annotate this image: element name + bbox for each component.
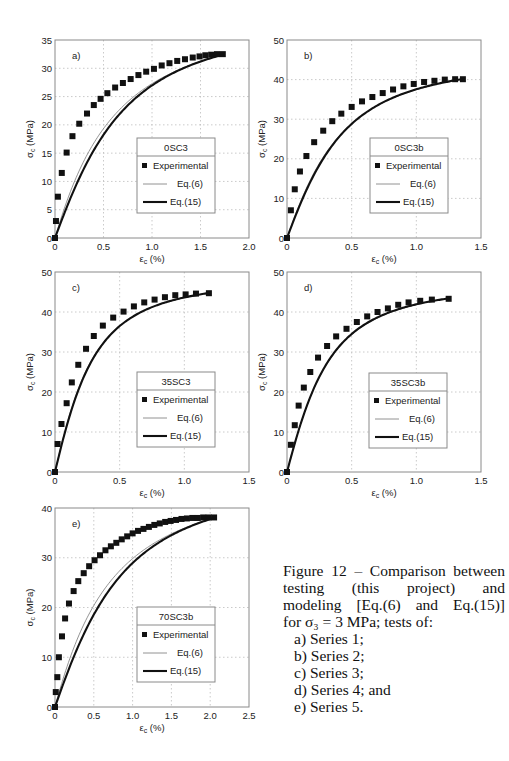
experimental-point	[59, 170, 65, 176]
experimental-point	[71, 588, 77, 594]
experimental-point	[110, 315, 116, 321]
experimental-point	[141, 299, 147, 305]
legend-entry: Eq.(15)	[402, 431, 433, 442]
experimental-point	[380, 90, 386, 96]
experimental-point	[146, 524, 152, 530]
y-tick-label: 0	[279, 467, 284, 478]
x-tick-label: 1.0	[410, 241, 423, 252]
legend-marker-square-icon	[375, 163, 380, 168]
experimental-point	[385, 305, 391, 311]
experimental-point	[214, 51, 220, 57]
experimental-point	[390, 87, 396, 93]
legend: 35SC3bExperimentalEq.(6)Eq.(15)	[369, 373, 447, 448]
experimental-point	[151, 66, 157, 72]
y-tick-label: 40	[273, 307, 284, 318]
legend-marker-square-icon	[142, 397, 147, 402]
legend: 0SC3bExperimentalEq.(6)Eq.(15)	[370, 138, 448, 213]
experimental-point	[62, 615, 68, 621]
y-tick-label: 30	[273, 347, 284, 358]
experimental-point	[172, 292, 178, 298]
experimental-point	[284, 235, 290, 241]
legend-entry: Eq.(15)	[403, 196, 434, 207]
y-tick-label: 20	[41, 602, 52, 613]
caption-item: e) Series 5.	[283, 698, 505, 715]
y-tick-label: 35	[41, 35, 52, 46]
x-tick-label: 0.5	[97, 241, 110, 252]
experimental-point	[54, 674, 60, 680]
experimental-point	[197, 53, 203, 59]
experimental-point	[69, 133, 75, 139]
experimental-point	[182, 56, 188, 62]
panel-label: d)	[304, 282, 312, 293]
x-axis-label: εc (%)	[139, 722, 164, 734]
experimental-point	[84, 111, 90, 117]
experimental-point	[220, 51, 226, 57]
y-tick-label: 30	[41, 347, 52, 358]
experimental-point	[83, 346, 89, 352]
caption-line: Figure 12 – Comparison between	[283, 562, 505, 579]
y-tick-label: 0	[47, 467, 52, 478]
experimental-point	[190, 55, 196, 61]
experimental-point	[375, 309, 381, 315]
x-tick-label: 0.5	[113, 475, 126, 486]
experimental-point	[91, 333, 97, 339]
experimental-point	[421, 79, 427, 85]
caption-line: testing (this project) and	[283, 579, 505, 596]
y-axis-label: σc (MPa)	[24, 353, 36, 391]
experimental-point	[69, 379, 75, 385]
y-tick-label: 10	[41, 427, 52, 438]
experimental-point	[86, 563, 92, 569]
experimental-point	[52, 235, 58, 241]
experimental-point	[151, 522, 157, 528]
experimental-point	[193, 291, 199, 297]
y-tick-label: 30	[41, 552, 52, 563]
experimental-point	[52, 469, 58, 475]
x-tick-label: 0	[52, 475, 57, 486]
experimental-point	[288, 207, 294, 213]
legend-entry: Eq.(6)	[177, 412, 203, 423]
experimental-point	[354, 319, 360, 325]
experimental-point	[307, 369, 313, 375]
x-tick-label: 1.5	[474, 475, 487, 486]
experimental-point	[284, 469, 290, 475]
legend-entry: Experimental	[153, 629, 208, 640]
legend: 70SC3bExperimentalEq.(6)Eq.(15)	[137, 607, 215, 682]
legend-title: 0SC3	[164, 142, 188, 153]
legend-entry: Experimental	[153, 160, 208, 171]
y-tick-label: 0	[279, 233, 284, 244]
experimental-point	[92, 557, 98, 563]
experimental-point	[206, 514, 212, 520]
legend-entry: Experimental	[153, 394, 208, 405]
y-tick-label: 50	[273, 35, 284, 46]
panel-label: e)	[72, 518, 80, 529]
experimental-point	[178, 516, 184, 522]
experimental-point	[292, 186, 298, 192]
experimental-point	[166, 60, 172, 66]
caption-line: for σ₃ = 3 MPa; tests of:	[283, 613, 505, 630]
experimental-point	[53, 218, 59, 224]
legend-title: 0SC3b	[394, 142, 423, 153]
x-tick-label: 0.5	[345, 241, 358, 252]
legend-entry: Eq.(6)	[177, 647, 203, 658]
y-tick-label: 10	[273, 193, 284, 204]
experimental-point	[168, 518, 174, 524]
legend-entry: Eq.(15)	[170, 430, 201, 441]
x-tick-label: 0.5	[345, 475, 358, 486]
x-tick-label: 2.5	[242, 710, 255, 721]
experimental-point	[130, 530, 136, 536]
x-axis-label: εc (%)	[139, 487, 164, 499]
x-axis-label: εc (%)	[371, 487, 396, 499]
y-tick-label: 5	[47, 204, 52, 215]
chart-panel-b: 00.51.01.501020304050εc (%)σc (MPa)b)0SC…	[256, 35, 488, 266]
experimental-point	[75, 578, 81, 584]
experimental-point	[349, 104, 355, 110]
experimental-point	[338, 111, 344, 117]
experimental-point	[315, 355, 321, 361]
x-tick-label: 1.0	[410, 475, 423, 486]
experimental-point	[112, 85, 118, 91]
x-tick-label: 0	[52, 710, 57, 721]
chart-panel-a: 00.51.01.52.005101520253035εc (%)σc (MPa…	[24, 35, 256, 266]
experimental-point	[364, 313, 370, 319]
y-tick-label: 25	[41, 91, 52, 102]
experimental-point	[159, 62, 165, 68]
